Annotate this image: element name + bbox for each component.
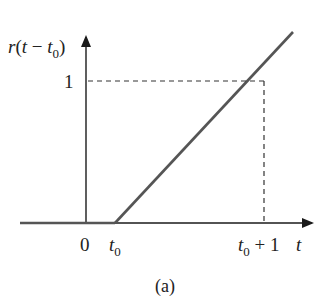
- x-axis-label: t: [296, 234, 302, 255]
- y-tick-label-one: 1: [64, 71, 74, 92]
- x-tick-label-t0-plus-one: t0 + 1: [238, 234, 280, 259]
- x-tick-label-origin: 0: [80, 234, 90, 255]
- figure-caption: (a): [155, 276, 175, 297]
- ramp-diagram: r(t − t0) 1 0 t0 t0 + 1 t (a): [0, 0, 327, 301]
- x-tick-label-t0: t0: [109, 234, 121, 259]
- y-axis-label: r(t − t0): [8, 36, 65, 61]
- ramp-line: [115, 32, 293, 223]
